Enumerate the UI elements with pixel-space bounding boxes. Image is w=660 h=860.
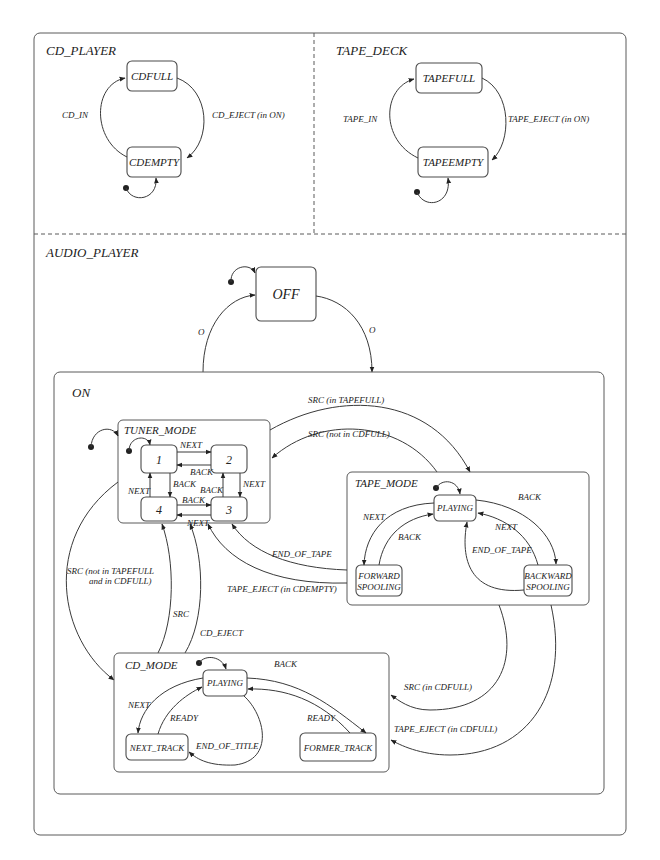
edge-label-tape-next: NEXT — [362, 512, 386, 522]
edge-label-tape-eject-in-cdfull: TAPE_EJECT (in CDFULL) — [394, 724, 497, 734]
state-tuner-4[interactable]: 4 — [141, 497, 177, 521]
edge-label-cd-eject-on: CD_EJECT — [200, 628, 244, 638]
region-on-label: ON — [72, 385, 91, 400]
edge-cd-in — [100, 78, 127, 157]
edge-label-cd-next: NEXT — [127, 700, 151, 710]
edge-label-tape-eject: TAPE_EJECT (in ON) — [508, 114, 589, 124]
edge-label-tape-next-bwd: NEXT — [494, 522, 518, 532]
state-tuner-3[interactable]: 3 — [211, 497, 247, 521]
edge-label-end-of-tape: END_OF_TAPE — [271, 549, 332, 559]
region-cd-player-label: CD_PLAYER — [46, 43, 116, 58]
region-tape-mode-label: TAPE_MODE — [355, 477, 418, 489]
state-off[interactable]: OFF — [256, 267, 316, 321]
edge-label-tuner-3-4: NEXT — [186, 518, 210, 528]
edge-label-tuner-2-3: NEXT — [242, 479, 266, 489]
edge-label-src-not-in-cdfull: SRC (not in CDFULL) — [308, 429, 390, 439]
edge-label-cd-ready-next: READY — [169, 713, 199, 723]
edge-cd-eject — [185, 524, 201, 653]
edge-label-tape-end-of-tape-inner: END_OF_TAPE — [471, 545, 532, 555]
edge-label-src-not-tapefull-2: and in CDFULL) — [89, 576, 152, 586]
svg-text:TAPEEMPTY: TAPEEMPTY — [423, 156, 485, 168]
state-tuner-1[interactable]: 1 — [141, 445, 177, 473]
edge-label-tuner-1-2: NEXT — [179, 440, 203, 450]
svg-text:TAPEFULL: TAPEFULL — [423, 72, 475, 84]
state-tape-playing[interactable]: PLAYING — [434, 495, 476, 521]
edge-label-cd-in: CD_IN — [62, 110, 89, 120]
edge-label-end-of-title: END_OF_TITLE — [195, 741, 259, 751]
statechart-diagram: CD_PLAYER CDFULL CDEMPTY CD_IN CD_EJECT … — [0, 0, 660, 860]
edge-label-tuner-2-1: BACK — [190, 467, 214, 477]
svg-text:NEXT_TRACK: NEXT_TRACK — [129, 743, 186, 753]
state-cd-playing[interactable]: PLAYING — [203, 670, 247, 696]
svg-text:FORWARD: FORWARD — [357, 571, 400, 581]
edge-end-of-tape — [232, 524, 347, 570]
state-backward-spooling[interactable]: BACKWARD SPOOLING — [524, 565, 572, 596]
edge-cd-eject — [177, 78, 204, 158]
state-cdfull[interactable]: CDFULL — [127, 61, 177, 91]
svg-text:OFF: OFF — [272, 287, 300, 302]
svg-text:FORMER_TRACK: FORMER_TRACK — [303, 743, 373, 753]
svg-text:SPOOLING: SPOOLING — [526, 582, 570, 592]
svg-text:SPOOLING: SPOOLING — [357, 582, 401, 592]
region-tape-deck-label: TAPE_DECK — [336, 43, 409, 58]
edge-on-to-off — [203, 295, 255, 372]
svg-text:PLAYING: PLAYING — [206, 678, 244, 688]
edge-off-to-on — [316, 296, 372, 372]
svg-text:1: 1 — [156, 453, 162, 467]
state-next-track[interactable]: NEXT_TRACK — [126, 734, 188, 760]
edge-label-tuner-1-4: BACK — [173, 479, 197, 489]
edge-label-src: SRC — [173, 609, 190, 619]
edge-label-tape-in: TAPE_IN — [343, 114, 378, 124]
svg-text:3: 3 — [225, 503, 232, 517]
region-audio-player-label: AUDIO_PLAYER — [45, 245, 139, 260]
edge-label-tuner-4-3: BACK — [182, 495, 206, 505]
edge-label-tape-back: BACK — [518, 492, 542, 502]
edge-label-src-not-tapefull-1: SRC (not in TAPEFULL — [67, 566, 154, 576]
edge-label-tuner-4-1: NEXT — [127, 486, 151, 496]
edge-label-cd-eject: CD_EJECT (in ON) — [212, 110, 285, 120]
svg-text:CDEMPTY: CDEMPTY — [129, 156, 181, 168]
region-tuner-mode-label: TUNER_MODE — [124, 424, 196, 436]
region-cd-mode-label: CD_MODE — [125, 659, 178, 671]
edge-label-on-to-off: O — [198, 327, 205, 337]
edge-label-src-in-cdfull: SRC (in CDFULL) — [404, 682, 472, 692]
edge-label-tape-back-fwd: BACK — [398, 532, 422, 542]
edge-label-src-in-tapefull: SRC (in TAPEFULL) — [308, 395, 384, 405]
edge-src-in-cdfull — [391, 605, 507, 710]
state-tapefull[interactable]: TAPEFULL — [416, 63, 482, 93]
svg-text:CDFULL: CDFULL — [131, 70, 173, 82]
state-forward-spooling[interactable]: FORWARD SPOOLING — [356, 565, 402, 596]
edge-label-cd-back: BACK — [274, 659, 298, 669]
state-tapeempty[interactable]: TAPEEMPTY — [418, 147, 488, 177]
edge-label-tape-eject-in-cdempty: TAPE_EJECT (in CDEMPTY) — [227, 584, 337, 594]
state-cdempty[interactable]: CDEMPTY — [127, 147, 181, 177]
svg-text:2: 2 — [226, 453, 232, 467]
state-former-track[interactable]: FORMER_TRACK — [300, 733, 376, 761]
edge-label-off-to-on: O — [369, 325, 376, 335]
edge-label-cd-ready-former: READY — [306, 713, 336, 723]
edge-label-tuner-3-2: BACK — [200, 485, 224, 495]
svg-text:PLAYING: PLAYING — [436, 503, 474, 513]
edge-src — [158, 524, 171, 653]
svg-text:BACKWARD: BACKWARD — [524, 571, 572, 581]
svg-text:4: 4 — [156, 503, 162, 517]
edge-tape-in — [390, 79, 418, 158]
state-tuner-2[interactable]: 2 — [211, 445, 247, 473]
